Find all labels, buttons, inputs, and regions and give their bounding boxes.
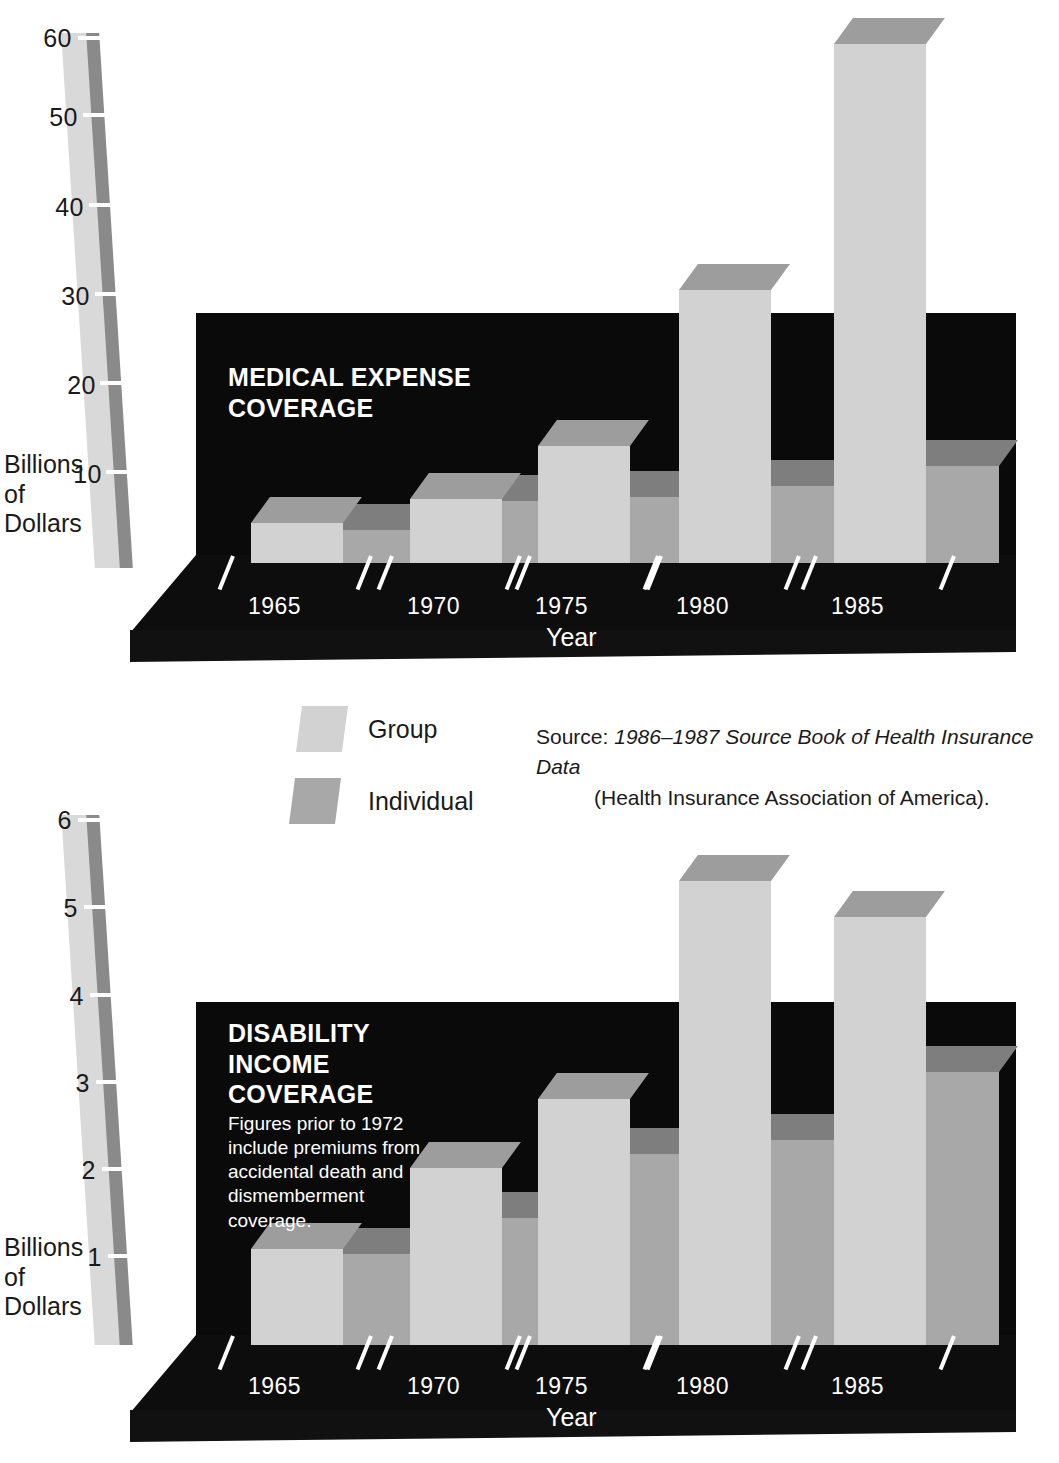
plot-stage-disability: 6 5 4 3 2 1 0 Billions of Dollars DISABI… — [0, 790, 1059, 1463]
bar-front-face — [538, 446, 630, 563]
bar-group-1980-disability — [679, 790, 771, 1345]
bar-front-face — [834, 917, 926, 1345]
bar-front-face — [251, 1249, 343, 1345]
y-tick-10-medical — [106, 470, 134, 474]
bar-top-face — [538, 1073, 649, 1099]
x-tick-label-1970-disability: 1970 — [407, 1373, 460, 1400]
bar-top-face — [834, 891, 945, 917]
bar-top-face — [538, 420, 649, 446]
bar-group-1975-medical — [538, 0, 630, 563]
x-axis-title-medical: Year — [546, 623, 597, 652]
chart-note-line3: accidental death and — [228, 1160, 478, 1184]
bar-top-face — [679, 855, 790, 881]
legend-swatch-group — [296, 706, 348, 752]
y-tick-label-20-medical: 20 — [34, 373, 96, 398]
bar-group-1980-medical — [679, 0, 771, 563]
y-tick-label-50-medical: 50 — [16, 105, 78, 130]
x-tick-label-1970-medical: 1970 — [407, 593, 460, 620]
legend-label-group: Group — [368, 715, 437, 744]
y-tick-20-medical — [100, 381, 128, 385]
chart-title-line2: COVERAGE — [228, 393, 471, 424]
x-tick-label-1975-medical: 1975 — [535, 593, 588, 620]
y-tick-label-4-disability: 4 — [30, 984, 84, 1009]
y-tick-3-disability — [96, 1080, 124, 1084]
bar-group-1985-disability — [834, 790, 926, 1345]
x-tick-label-1980-disability: 1980 — [676, 1373, 729, 1400]
y-axis-title-line2: of — [4, 1263, 83, 1293]
plot-stage-medical: 60 50 40 30 20 10 0 Billions of Dollars … — [0, 0, 1059, 690]
source-prefix: Source: — [536, 725, 608, 748]
y-axis-title-disability: Billions of Dollars — [4, 1233, 83, 1322]
chart-title-line1: MEDICAL EXPENSE — [228, 362, 471, 393]
y-tick-label-6-disability: 6 — [18, 808, 72, 833]
bar-front-face — [679, 290, 771, 563]
chart-title-line2: INCOME — [228, 1049, 373, 1080]
chart-title-line1: DISABILITY — [228, 1018, 373, 1049]
bar-group-1975-disability — [538, 790, 630, 1345]
y-tick-40-medical — [89, 203, 117, 207]
x-tick-label-1985-medical: 1985 — [831, 593, 884, 620]
x-tick-label-1965-medical: 1965 — [248, 593, 301, 620]
bar-front-face — [834, 44, 926, 563]
bar-front-face — [251, 523, 343, 563]
chart-note-disability: Figures prior to 1972 include premiums f… — [228, 1112, 478, 1233]
bar-group-1970-disability — [410, 790, 502, 1345]
chart-medical-expense-coverage: 60 50 40 30 20 10 0 Billions of Dollars … — [0, 0, 1059, 690]
bar-front-face — [410, 499, 502, 563]
chart-note-line4: dismemberment — [228, 1184, 478, 1208]
bar-front-face — [538, 1099, 630, 1345]
y-axis-title-line1: Billions — [4, 1233, 83, 1263]
y-axis-title-line1: Billions — [4, 450, 83, 480]
bar-top-face — [251, 497, 362, 523]
bar-top-face — [834, 18, 945, 44]
y-tick-label-60-medical: 60 — [10, 26, 72, 51]
y-axis-title-line3: Dollars — [4, 1292, 83, 1322]
y-axis-title-line2: of — [4, 480, 83, 510]
y-axis-title-line3: Dollars — [4, 509, 83, 539]
x-tick-label-1965-disability: 1965 — [248, 1373, 301, 1400]
y-tick-30-medical — [95, 292, 123, 296]
y-tick-label-30-medical: 30 — [28, 284, 90, 309]
x-tick-label-1980-medical: 1980 — [676, 593, 729, 620]
y-tick-60-medical — [78, 36, 106, 40]
y-tick-label-2-disability: 2 — [42, 1158, 96, 1183]
y-tick-label-40-medical: 40 — [22, 195, 84, 220]
bar-group-1970-medical — [410, 0, 502, 563]
x-axis-title-disability: Year — [546, 1403, 597, 1432]
y-tick-5-disability — [84, 905, 112, 909]
x-tick-label-1975-disability: 1975 — [535, 1373, 588, 1400]
y-tick-label-3-disability: 3 — [36, 1071, 90, 1096]
y-tick-label-5-disability: 5 — [24, 896, 78, 921]
y-axis-title-medical: Billions of Dollars — [4, 450, 83, 539]
y-tick-1-disability — [108, 1254, 136, 1258]
chart-note-line1: Figures prior to 1972 — [228, 1112, 478, 1136]
y-tick-label-0-medical: 0 — [146, 548, 160, 573]
bar-group-1965-medical — [251, 0, 343, 563]
y-tick-2-disability — [102, 1167, 130, 1171]
chart-note-line2: include premiums from — [228, 1136, 478, 1160]
source-title: 1986–1987 Source Book of Health Insuranc… — [536, 725, 1033, 778]
x-tick-label-1985-disability: 1985 — [831, 1373, 884, 1400]
chart-title-line3: COVERAGE — [228, 1079, 373, 1110]
bar-group-1985-medical — [834, 0, 926, 563]
chart-title-disability: DISABILITY INCOME COVERAGE — [228, 1018, 373, 1110]
y-tick-50-medical — [83, 113, 111, 117]
y-tick-4-disability — [90, 993, 118, 997]
y-tick-6-disability — [78, 818, 106, 822]
chart-note-line5: coverage. — [228, 1209, 478, 1233]
bar-top-face — [679, 264, 790, 290]
y-tick-label-0-disability: 0 — [148, 1330, 162, 1355]
bar-top-face — [410, 473, 521, 499]
bar-front-face — [679, 881, 771, 1345]
chart-disability-income-coverage: 6 5 4 3 2 1 0 Billions of Dollars DISABI… — [0, 790, 1059, 1463]
chart-title-medical: MEDICAL EXPENSE COVERAGE — [228, 362, 471, 423]
